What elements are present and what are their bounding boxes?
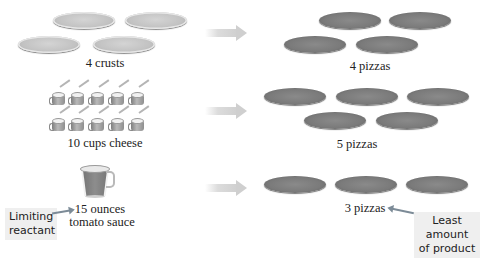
product-label-row3: 3 pizzas [340, 202, 390, 215]
crust-icon [93, 36, 155, 53]
pizza-icon [406, 176, 468, 193]
cheese-cup-icon [130, 91, 145, 105]
cheese-cup-icon [70, 117, 85, 131]
crust-icon [53, 12, 115, 29]
cheese-cup-icon [51, 91, 66, 105]
cheese-cup-icon [90, 117, 105, 131]
cheese-cup-icon [90, 91, 105, 105]
reaction-arrow-icon [205, 26, 249, 40]
cheese-cup-icon [130, 117, 145, 131]
cheese-cup-icon [110, 91, 125, 105]
reactant-label-cheese: 10 cups cheese [50, 137, 160, 150]
reaction-arrow-icon [205, 104, 249, 118]
cheese-cup-icon [70, 91, 85, 105]
callout-line: Least amount [418, 214, 476, 242]
reaction-arrow-icon [205, 181, 249, 195]
pizza-icon [319, 12, 381, 29]
crust-icon [18, 36, 80, 53]
reactant-label-crusts: 4 crusts [60, 57, 150, 70]
product-label-row1: 4 pizzas [325, 60, 415, 73]
pizza-icon [264, 176, 326, 193]
callout-line: of product [418, 242, 476, 256]
crust-icon [125, 12, 187, 29]
pizza-icon [264, 88, 326, 105]
pizza-icon [336, 88, 398, 105]
callout-line: reactant [9, 224, 53, 238]
pointer-arrow-icon [392, 208, 414, 215]
callout-line: Limiting [9, 210, 53, 224]
cheese-cup-icon [51, 117, 66, 131]
pizza-icon [356, 36, 418, 53]
pizza-icon [389, 12, 451, 29]
measuring-cup-icon [80, 165, 114, 199]
limiting-reactant-callout: Limiting reactant [5, 208, 57, 240]
pizza-icon [304, 112, 366, 129]
reactant-label-sauce-line2: tomato sauce [62, 216, 142, 229]
product-label-row2: 5 pizzas [312, 138, 402, 151]
pizza-icon [335, 176, 397, 193]
pizza-icon [284, 36, 346, 53]
least-product-callout: Least amount of product [414, 212, 480, 258]
pizza-icon [407, 88, 469, 105]
pizza-icon [376, 112, 438, 129]
cheese-cup-icon [110, 117, 125, 131]
